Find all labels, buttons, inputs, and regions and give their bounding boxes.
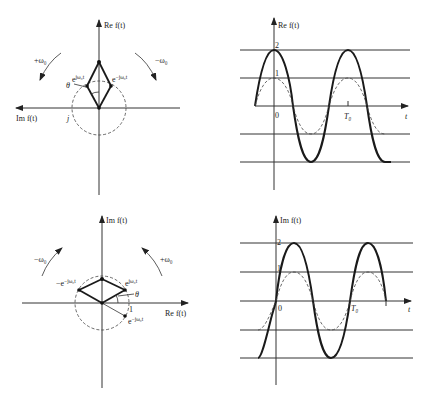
unit-label: j <box>66 114 70 123</box>
phasor-negative-label: e−jω₀t <box>128 316 144 326</box>
im-axis-label: Im f(t) <box>106 216 127 225</box>
phasor-diagram-real: Re f(t) Im f(t) +ω₀ −ω₀ ejω₀t e−jω₀t θ j <box>16 20 180 195</box>
rotation-arrow-cw <box>135 53 156 80</box>
unit-label: 1 <box>129 305 133 314</box>
time-axis-label: t <box>405 112 408 121</box>
im-axis-label: Im f(t) <box>280 216 301 225</box>
phasor-positive <box>87 86 99 108</box>
parallelogram-side <box>87 62 99 86</box>
angle-arc <box>116 295 118 303</box>
rotation-left-label: +ω₀ <box>34 56 47 65</box>
phasor-positive <box>102 290 125 303</box>
im-axis-label: Im f(t) <box>16 114 37 123</box>
tick-2-label: 2 <box>275 41 279 50</box>
parallelogram-side <box>99 62 111 86</box>
tick-1-label: 1 <box>277 264 281 273</box>
phasor-negative <box>99 86 111 108</box>
re-axis-label: Re f(t) <box>278 21 299 30</box>
angle-leader <box>118 294 134 296</box>
phasor-negative <box>102 303 125 316</box>
rotation-right-label: −ω₀ <box>155 56 168 65</box>
rotation-right-label: +ω₀ <box>160 255 173 264</box>
rotation-left-label: −ω₀ <box>34 255 47 264</box>
figure-canvas: Re f(t) Im f(t) +ω₀ −ω₀ ejω₀t e−jω₀t θ j… <box>0 0 427 403</box>
period-label: T₀ <box>351 304 358 313</box>
phasor-neg-negative <box>79 290 102 303</box>
tick-0-label: 0 <box>278 304 282 313</box>
phasor-diagram-imag: Im f(t) Re f(t) −ω₀ +ω₀ ejω₀t e−jω₀t −e−… <box>22 216 188 388</box>
time-axis-label: t <box>408 305 411 314</box>
waveform-imag: Im f(t) 2 1 0 T₀ t <box>240 216 413 385</box>
angle-label: θ <box>66 81 70 90</box>
waveform-real: Re f(t) 2 1 0 T₀ t <box>240 18 410 190</box>
tick-0-label: 0 <box>275 111 279 120</box>
tick-2-label: 2 <box>277 238 281 247</box>
angle-label: θ <box>135 290 139 299</box>
phasor-positive-label: ejω₀t <box>125 278 138 288</box>
parallelogram-side <box>79 279 102 290</box>
tick-1-label: 1 <box>275 69 279 78</box>
phasor-neg-negative-label: −e−jω₀t <box>56 278 76 288</box>
angle-arc <box>91 92 99 94</box>
phasor-positive-label: ejω₀t <box>72 74 85 84</box>
rotation-arrow-ccw <box>142 248 162 276</box>
phasor-negative-label: e−jω₀t <box>112 74 128 84</box>
parallelogram-side <box>102 279 125 290</box>
re-axis-label: Re f(t) <box>104 21 125 30</box>
re-axis-label: Re f(t) <box>165 309 186 318</box>
period-label: T₀ <box>344 112 351 121</box>
